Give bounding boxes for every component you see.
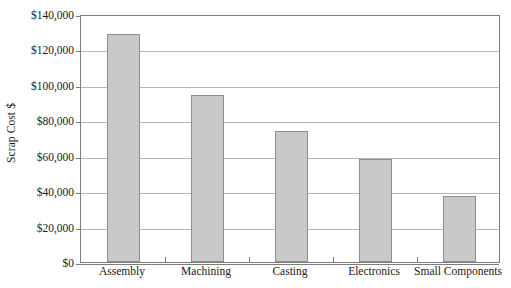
y-axis-tick-label: $0 — [63, 257, 75, 269]
x-axis-tickmark — [249, 257, 250, 262]
bars — [81, 16, 499, 262]
x-axis-tick-label: Casting — [272, 265, 307, 277]
y-axis-tick-label: $60,000 — [37, 151, 74, 163]
bar — [443, 196, 476, 262]
y-axis-tick-label: $120,000 — [31, 44, 74, 56]
x-axis-tick-label: Electronics — [348, 265, 400, 277]
x-axis-tick-labels: AssemblyMachiningCastingElectronicsSmall… — [80, 265, 500, 287]
y-axis-tick-label: $80,000 — [37, 115, 74, 127]
y-axis-tick-label: $140,000 — [31, 9, 74, 21]
y-axis-tick-labels: $0$20,000$40,000$60,000$80,000$100,000$1… — [16, 15, 78, 263]
y-axis-tick-label: $20,000 — [37, 222, 74, 234]
x-axis-tickmark — [333, 257, 334, 262]
bar — [107, 34, 140, 262]
x-axis-tick-label: Machining — [181, 265, 231, 277]
bar-chart: Scrap Cost $ $0$20,000$40,000$60,000$80,… — [0, 0, 511, 288]
x-axis-tickmark — [417, 257, 418, 262]
bar — [275, 131, 308, 262]
x-axis-tick-label: Assembly — [99, 265, 145, 277]
y-axis-tick-label: $100,000 — [31, 80, 74, 92]
x-axis-tickmark — [165, 257, 166, 262]
plot-area — [80, 15, 500, 263]
bar — [191, 95, 224, 262]
y-axis-tick-label: $40,000 — [37, 186, 74, 198]
x-axis-tick-label: Small Components — [414, 265, 502, 277]
bar — [359, 159, 392, 262]
